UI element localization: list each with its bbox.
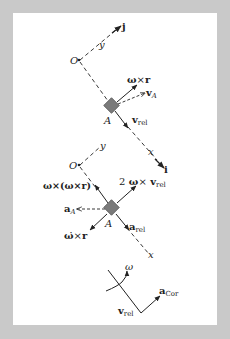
- acceleration-diagram: [77, 147, 149, 254]
- origin-label-2: O: [69, 161, 77, 171]
- vrel-label-2: vrel: [118, 306, 134, 319]
- i-unit-vector-arrow: [155, 159, 164, 168]
- acor-arrow: [141, 296, 160, 313]
- point-a-label-2: A: [105, 219, 112, 229]
- vA-arrow: [118, 93, 145, 104]
- j-label: j: [122, 22, 126, 32]
- angular-accel-label: ω̇×r: [64, 231, 87, 241]
- block-a-2: [104, 200, 120, 216]
- block-a: [104, 98, 120, 114]
- y-axis-label: y: [99, 40, 105, 50]
- acor-label: aCor: [159, 286, 178, 299]
- x-axis-line: [80, 62, 108, 101]
- origin-label: O: [70, 56, 78, 66]
- x-axis-label: x: [148, 147, 154, 157]
- vA-label: vA: [146, 88, 157, 101]
- omega-label: ω: [125, 262, 133, 272]
- i-label: i: [164, 165, 168, 175]
- omega-cross-r-label: ω×r: [127, 75, 150, 85]
- coriolis-label: 2 ω× vrel: [119, 177, 166, 190]
- j-unit-vector-arrow: [112, 26, 121, 33]
- y-axis-line-2: [80, 147, 100, 165]
- arel-arrow: [116, 214, 129, 230]
- omega-cross-r-arrow: [117, 85, 137, 102]
- aA-label: aA: [64, 204, 76, 217]
- vrel-arrow: [115, 111, 128, 128]
- arel-label: arel: [129, 222, 145, 235]
- centripetal-arrow: [95, 185, 108, 203]
- point-a-label: A: [104, 116, 111, 126]
- kinematics-diagram: [0, 0, 230, 339]
- y-axis-line: [80, 30, 116, 60]
- vrel-label: vrel: [132, 115, 148, 128]
- x-axis-label-2: x: [148, 250, 154, 260]
- origin-point-2: [78, 164, 81, 167]
- y-axis-label-2: y: [100, 141, 106, 151]
- centripetal-label: ω×(ω×r): [43, 181, 91, 191]
